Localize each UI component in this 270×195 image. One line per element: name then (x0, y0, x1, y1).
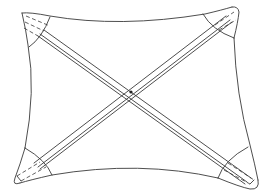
sail-outline (14, 7, 258, 189)
batten-tl-br (38, 30, 251, 184)
sail-drawing (0, 0, 270, 195)
center-joint-dot (129, 90, 132, 93)
sail-diagram (0, 0, 270, 195)
corner-pocket-top-right (203, 12, 236, 38)
batten-tr-bl (34, 16, 232, 169)
